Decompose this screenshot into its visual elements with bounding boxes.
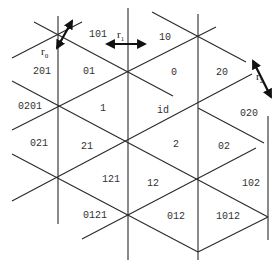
region-label: 20 — [216, 67, 228, 78]
region-label: 102 — [242, 178, 260, 189]
diagonal-mirror-line — [82, 148, 256, 239]
reflection-lines — [12, 8, 268, 260]
region-label: 012 — [167, 211, 185, 222]
region-label: 10 — [159, 32, 171, 43]
region-label: 101 — [89, 29, 107, 40]
region-label: 12 — [147, 178, 159, 189]
diagonal-mirror-line — [12, 154, 198, 252]
coxeter-complex-diagram: 101102010102002011id02002121202121121020… — [0, 0, 279, 274]
generator-labels: r0r1r2 — [41, 28, 264, 85]
region-label: 021 — [30, 138, 48, 149]
region-label: 1012 — [216, 211, 240, 222]
region-label: 0 — [171, 67, 177, 78]
double-arrow-icon — [57, 21, 72, 48]
generator-label: r1 — [117, 28, 125, 43]
region-label: 21 — [81, 141, 93, 152]
region-label: 02 — [218, 141, 230, 152]
region-label: 01 — [83, 66, 95, 77]
region-label: id — [157, 105, 169, 116]
region-label: 201 — [33, 66, 51, 77]
region-label: 0201 — [18, 101, 42, 112]
region-label: 121 — [102, 174, 120, 185]
tiling-svg: 101102010102002011id02002121202121121020… — [0, 0, 279, 274]
region-label: 1 — [100, 103, 106, 114]
region-label: 2 — [173, 139, 179, 150]
generator-label: r0 — [41, 45, 49, 60]
diagonal-mirror-line — [198, 217, 268, 252]
region-label: 020 — [240, 108, 258, 119]
region-label: 0121 — [83, 210, 107, 221]
